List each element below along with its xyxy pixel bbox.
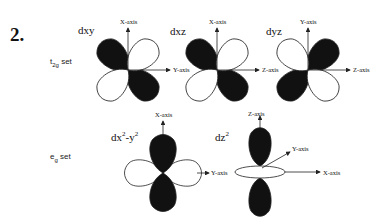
dz2-diagonal-axis-label: Y-axis: [292, 145, 309, 152]
dz2-orbital: [235, 116, 320, 216]
dxz-orbital: [180, 28, 259, 107]
dxy-label: dxy: [78, 24, 95, 36]
dxy-horizontal-axis-label: Y-axis: [173, 66, 190, 73]
dxy-orbital: [91, 28, 170, 107]
dxy-vertical-axis-label: X-axis: [120, 18, 137, 25]
dyz-orbital: [271, 28, 350, 107]
dyz-label: dyz: [266, 25, 282, 37]
dxz-label: dxz: [170, 25, 186, 37]
dz2-torus: [235, 166, 285, 178]
dz2-vertical-axis-label: Z-axis: [248, 110, 265, 117]
dz2-label-sup: 2: [225, 130, 229, 138]
dz2-lobe-upper: [249, 128, 271, 166]
dz2-lobe-lower: [249, 178, 271, 216]
dx2y2-label-mid: -y: [126, 131, 135, 143]
dz2-horizontal-axis-label: X-axis: [323, 169, 340, 176]
dz2-label: dz2: [215, 130, 229, 143]
dx2y2-horizontal-axis-label: Y-axis: [211, 169, 228, 176]
dxz-horizontal-axis-label: Z-axis: [262, 66, 279, 73]
dyz-horizontal-axis-label: Z-axis: [353, 66, 370, 73]
dx2y2-label-sup2: 2: [135, 130, 139, 138]
dyz-vertical-axis-label: Y-axis: [300, 18, 317, 25]
dx2y2-label: dx2-y2: [111, 130, 138, 143]
dx2y2-label-main: dx: [111, 131, 122, 143]
dxz-vertical-axis-label: X-axis: [209, 18, 226, 25]
dx2y2-vertical-axis-label: X-axis: [155, 111, 172, 118]
dz2-label-main: dz: [215, 131, 225, 143]
